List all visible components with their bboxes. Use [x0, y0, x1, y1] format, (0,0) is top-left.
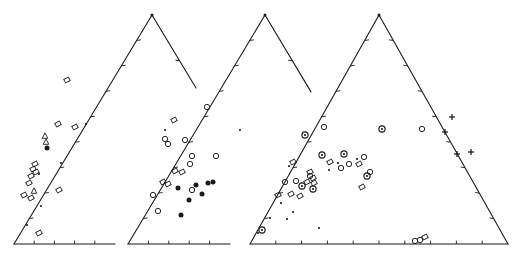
- tick-right: [288, 60, 292, 61]
- tick-left: [29, 218, 33, 219]
- datapoint-c-44-slanted-square: [422, 234, 428, 240]
- datapoint-c-36-dot: [292, 211, 294, 213]
- datapoint-b-19-open-circle: [155, 208, 160, 213]
- datapoint-b-7-open-circle: [187, 161, 192, 166]
- datapoint-a-10-dot: [38, 173, 40, 175]
- tick-right: [432, 116, 436, 117]
- tick-left: [106, 91, 110, 92]
- tick-right: [418, 91, 422, 92]
- datapoint-b-0-slanted-square: [171, 117, 177, 123]
- datapoint-b-13-filled-circle: [194, 183, 199, 188]
- slanted-square-body: [171, 117, 177, 123]
- datapoint-c-33-slanted-square: [359, 184, 365, 190]
- datapoint-b-4-open-circle: [182, 137, 187, 142]
- datapoint-a-14-slanted-square: [28, 195, 34, 201]
- panel-c-left-edge: [250, 15, 379, 244]
- bullseye-center: [366, 175, 368, 177]
- tick-left: [350, 65, 354, 66]
- datapoint-b-17-filled-circle: [200, 192, 205, 197]
- bullseye-center: [304, 134, 306, 136]
- series-panel-a-points: [21, 77, 166, 236]
- datapoint-a-1-slanted-square: [55, 121, 61, 127]
- slanted-square-body: [56, 187, 62, 193]
- datapoint-c-28-bullseye: [299, 183, 305, 189]
- slanted-square-body: [64, 77, 70, 83]
- datapoint-c-41-dot: [318, 227, 320, 229]
- datapoint-c-4-plus: [442, 129, 448, 135]
- series-panel-c-points: [257, 114, 474, 244]
- datapoint-b-6-open-circle: [189, 153, 194, 158]
- slanted-square-body: [356, 161, 362, 167]
- slanted-square-body: [297, 193, 303, 199]
- datapoint-c-38-dot: [286, 218, 288, 220]
- tick-left: [45, 193, 49, 194]
- tick-left: [158, 193, 162, 194]
- datapoint-c-34-dot: [288, 165, 290, 167]
- datapoint-c-14-open-circle: [346, 161, 351, 166]
- datapoint-c-32-slanted-square: [297, 193, 303, 199]
- datapoint-b-15-filled-circle: [211, 180, 216, 185]
- datapoint-b-1-open-circle: [204, 104, 209, 109]
- tick-left: [307, 142, 311, 143]
- bullseye-center: [321, 154, 323, 156]
- datapoint-a-4-triangle: [43, 139, 49, 144]
- tick-left: [91, 116, 95, 117]
- datapoint-a-15-slanted-square: [56, 187, 62, 193]
- datapoint-c-0-bullseye: [379, 126, 385, 132]
- tick-left: [322, 116, 326, 117]
- bullseye-center: [381, 128, 383, 130]
- bullseye-center: [261, 229, 263, 231]
- tick-right: [461, 167, 465, 168]
- ternary-diagram-figure: [0, 0, 522, 274]
- panel-a-left-edge: [14, 15, 152, 244]
- slanted-square-body: [26, 180, 32, 186]
- slanted-square-body: [36, 230, 42, 236]
- tick-left: [219, 91, 223, 92]
- datapoint-a-11-slanted-square: [26, 180, 32, 186]
- tick-left: [293, 167, 297, 168]
- datapoint-c-9-bullseye: [341, 151, 347, 157]
- datapoint-c-40-dot: [257, 232, 259, 234]
- datapoint-c-3-open-circle: [419, 126, 424, 131]
- datapoint-c-31-slanted-square: [288, 191, 294, 197]
- slanted-square-body: [55, 121, 61, 127]
- datapoint-a-21-dot: [164, 129, 166, 131]
- tick-right: [475, 193, 479, 194]
- tick-right: [389, 40, 393, 41]
- datapoint-c-37-dot: [269, 217, 271, 219]
- datapoint-b-16-open-circle: [189, 187, 194, 192]
- tick-left: [143, 218, 147, 219]
- datapoint-a-20-slanted-square: [36, 230, 42, 236]
- datapoint-c-6-plus: [468, 149, 474, 155]
- panel-b-left-edge: [128, 15, 265, 244]
- tick-left: [365, 40, 369, 41]
- slanted-square-body: [359, 184, 365, 190]
- datapoint-a-0-slanted-square: [64, 77, 70, 83]
- datapoint-b-20-filled-circle: [187, 198, 192, 203]
- tick-right: [175, 60, 179, 61]
- datapoint-c-15-dot: [356, 158, 358, 160]
- datapoint-c-2-open-circle: [321, 124, 326, 129]
- slanted-square-body: [32, 161, 38, 167]
- tick-left: [204, 116, 208, 117]
- panels-layer: [14, 14, 508, 245]
- datapoint-a-16-dot: [85, 123, 87, 125]
- tick-right: [403, 65, 407, 66]
- tick-right: [446, 142, 450, 143]
- datapoint-c-17-dot: [328, 169, 330, 171]
- datapoint-a-18-dot: [40, 205, 42, 207]
- slanted-square-body: [179, 169, 185, 175]
- bullseye-center: [301, 185, 303, 187]
- tick-left: [250, 40, 254, 41]
- datapoint-a-19-dot: [26, 224, 28, 226]
- slanted-square-body: [28, 195, 34, 201]
- panel-b-right-edge: [265, 15, 311, 92]
- datapoint-b-18-open-circle: [150, 192, 155, 197]
- tick-right: [489, 218, 493, 219]
- points-layer: [21, 77, 474, 244]
- datapoint-a-17-dot: [60, 162, 62, 164]
- datapoint-c-13-slanted-square: [356, 161, 362, 167]
- panel-c-apex-marker: [378, 14, 381, 17]
- tick-left: [75, 142, 79, 143]
- datapoint-b-22-dot: [239, 129, 241, 131]
